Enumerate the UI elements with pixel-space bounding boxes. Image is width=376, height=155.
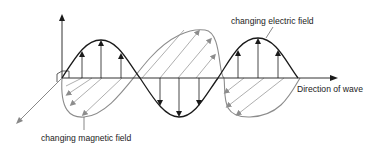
direction-arrowhead-icon	[330, 75, 338, 81]
em-wave-diagram: changing electric field Direction of wav…	[0, 0, 376, 155]
direction-label: Direction of wave	[297, 84, 363, 94]
vertical-axis	[59, 14, 65, 78]
magnetic-field-wave	[62, 30, 300, 117]
axis-arrowhead-icon	[59, 14, 65, 21]
electric-label-leader	[266, 27, 273, 38]
magnetic-field-label: changing magnetic field	[41, 133, 132, 143]
electric-field-label: changing electric field	[231, 16, 314, 26]
oblique-axis	[16, 78, 62, 124]
